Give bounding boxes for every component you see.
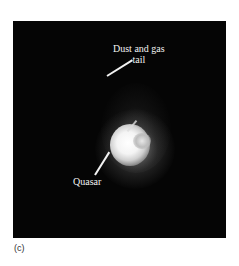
tail-label-line2: tail [113, 54, 165, 65]
panel-label: (c) [14, 243, 25, 253]
quasar-photo: Dust and gas tail Quasar [13, 21, 226, 238]
quasar-label: Quasar [73, 176, 101, 187]
tail-label: Dust and gas tail [113, 43, 165, 65]
host-galaxy-blob [133, 133, 151, 149]
tail-label-line1: Dust and gas [113, 43, 165, 54]
